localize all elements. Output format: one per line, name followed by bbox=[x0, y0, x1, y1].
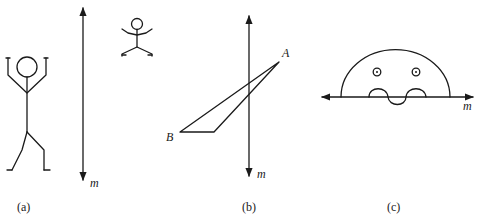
triangle bbox=[180, 62, 279, 132]
panel-c: m (c) bbox=[322, 50, 473, 214]
small-stick-figure bbox=[122, 19, 152, 57]
panel-a: m (a) bbox=[6, 8, 152, 214]
reflection-diagram: m (a) A B m (b) m (c) bbox=[0, 0, 479, 216]
eye-right bbox=[412, 68, 420, 76]
eye-left bbox=[373, 68, 381, 76]
caption-b: (b) bbox=[242, 200, 256, 214]
caption-c: (c) bbox=[387, 200, 400, 214]
line-label-m-a: m bbox=[90, 176, 99, 190]
caption-a: (a) bbox=[17, 200, 30, 214]
line-label-m-b: m bbox=[257, 167, 266, 181]
half-dome-face bbox=[341, 50, 450, 97]
line-label-m-c: m bbox=[463, 99, 472, 113]
vertex-label-a: A bbox=[281, 46, 290, 60]
large-stick-figure bbox=[6, 57, 50, 170]
vertex-label-b: B bbox=[166, 130, 174, 144]
panel-b: A B m (b) bbox=[166, 16, 290, 214]
